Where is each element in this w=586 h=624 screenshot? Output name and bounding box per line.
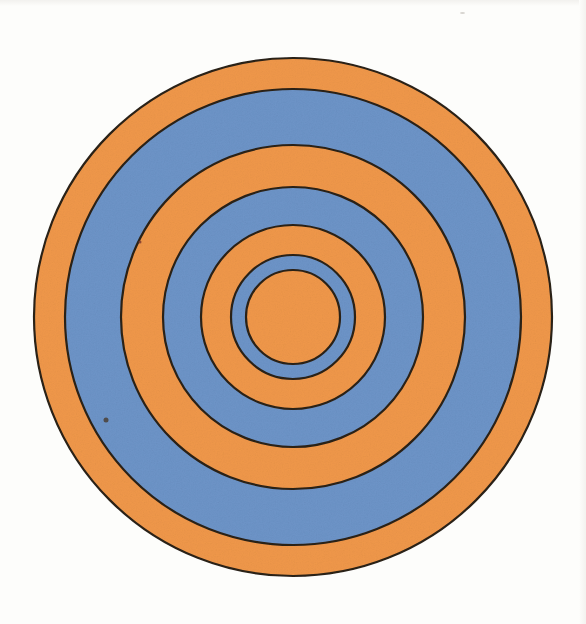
- concentric-circles-target: [0, 0, 586, 624]
- ink-speck-left-lower: [104, 418, 109, 423]
- figure-canvas: [0, 0, 586, 624]
- ink-speck-left-upper: [139, 241, 142, 244]
- center-orange-disc: [246, 270, 340, 364]
